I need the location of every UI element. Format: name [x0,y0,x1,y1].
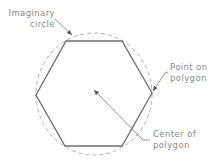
center-of-polygon-leader [94,90,150,140]
point-on-polygon-leader [153,72,168,91]
point-on-polygon-label-line1: Point on [170,62,208,73]
center-of-polygon-label: Center of polygon [153,129,196,151]
diagram-canvas: Imaginary circle Point on polygon Center… [0,0,218,166]
point-on-polygon-label-line2: polygon [170,73,208,84]
imaginary-circle-label-line2: circle [8,19,55,30]
imaginary-circle-leader [55,19,72,35]
imaginary-circle-label: Imaginary circle [8,8,55,30]
hexagon-polygon [36,41,152,146]
point-on-polygon-label: Point on polygon [170,62,208,84]
center-of-polygon-label-line2: polygon [153,140,196,151]
imaginary-circle [36,33,152,155]
center-of-polygon-label-line1: Center of [153,129,196,140]
imaginary-circle-label-line1: Imaginary [8,8,55,19]
